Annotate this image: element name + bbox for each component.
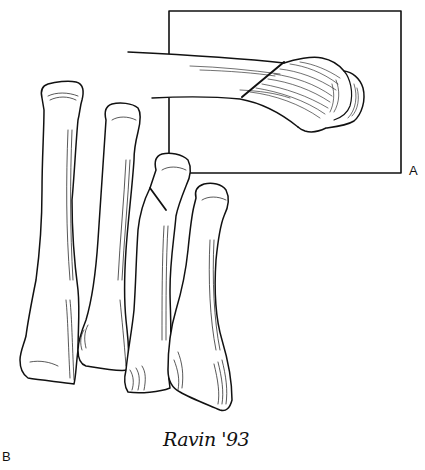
metatarsal-illustration	[0, 0, 425, 470]
inset-metatarsal	[128, 52, 364, 132]
metatarsal-bone-4	[168, 183, 232, 410]
panel-label-b: B	[2, 449, 11, 464]
artist-signature: Ravin '93	[163, 428, 249, 450]
metatarsal-bone-1	[20, 81, 83, 384]
panel-label-a: A	[409, 163, 418, 178]
